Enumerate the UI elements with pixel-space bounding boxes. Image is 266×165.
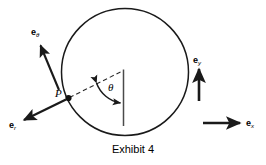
e-theta-label: eθ [31, 28, 39, 38]
e-r-arrow [24, 100, 66, 121]
diagram-canvas [0, 0, 266, 165]
e-y-label: ey [193, 56, 201, 66]
e-r-subscript: r [14, 125, 16, 131]
point-p-marker [65, 95, 71, 101]
e-r-label: er [9, 121, 16, 131]
main-circle [62, 9, 189, 136]
theta-label: θ [108, 82, 113, 93]
point-p-label: P [55, 88, 62, 99]
figure-caption: Exhibit 4 [0, 143, 266, 155]
e-x-label: ex [246, 119, 254, 129]
e-y-subscript: y [198, 60, 201, 66]
e-x-subscript: x [251, 123, 254, 129]
e-theta-subscript: θ [36, 32, 39, 38]
e-theta-arrow [41, 46, 60, 91]
exhibit-figure: eθ er ey ex P θ Exhibit 4 [0, 0, 266, 165]
